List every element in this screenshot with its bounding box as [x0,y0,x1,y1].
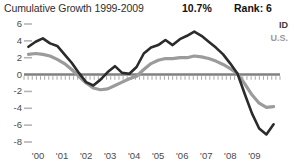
series-line-us [28,54,273,108]
plot-area [0,18,294,146]
chart-header: Cumulative Growth 1999-2009 10.7% Rank: … [0,0,294,18]
x-axis-tick-label: '01 [50,150,74,162]
line-chart-svg [0,18,294,146]
x-axis-tick-label: '05 [146,150,170,162]
x-axis-tick-label: '00 [26,150,50,162]
x-axis-tick-label: '04 [122,150,146,162]
cumulative-growth-chart-panel: Cumulative Growth 1999-2009 10.7% Rank: … [0,0,294,166]
x-axis-tick-label: '09 [242,150,266,162]
y-axis-tick-marks [24,24,32,142]
x-axis-tick-label: '02 [74,150,98,162]
x-axis-tick-label: '07 [194,150,218,162]
x-axis-tick-label: '03 [98,150,122,162]
x-axis-tick-label: '08 [218,150,242,162]
x-axis-labels: '00'01'02'03'04'05'06'07'08'09 [0,150,294,164]
growth-value: 10.7% [182,2,212,15]
series-line-id [28,32,273,135]
rank-badge: Rank: 6 [234,2,272,15]
x-axis-tick-label: '06 [170,150,194,162]
page-title: Cumulative Growth 1999-2009 [4,2,144,15]
